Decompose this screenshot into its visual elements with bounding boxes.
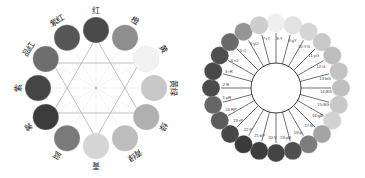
hue-swatch (211, 112, 229, 130)
hue-swatch (83, 17, 109, 43)
hue-swatch (133, 104, 159, 130)
hue-code-label: 7:rY (263, 36, 271, 41)
twenty-four-hue-color-wheel: 8:Y9:gY10:YG11:yG12:G13:bG14:BG15:BG16:g… (180, 0, 365, 178)
hue-label: 绿 (157, 121, 169, 132)
radial-guide-line (96, 52, 117, 88)
hue-swatch (323, 47, 341, 65)
hue-label: 黄 (157, 43, 170, 55)
radial-guide-line (75, 52, 96, 88)
hue-swatch (202, 79, 220, 97)
hue-code-label: 19:pB (280, 135, 291, 140)
hue-swatch (284, 16, 302, 34)
hue-swatch (112, 125, 138, 151)
radial-guide-line (75, 88, 96, 124)
hue-swatch (204, 96, 222, 114)
hue-swatch (54, 25, 80, 51)
hue-label: 橙 (129, 14, 141, 27)
hue-swatch (141, 75, 167, 101)
hue-swatch (112, 25, 138, 51)
hue-code-label: 20:V (268, 135, 277, 140)
hue-code-label: 17:B (304, 123, 313, 128)
hue-swatch (267, 144, 285, 162)
hue-code-label: 22:P (244, 127, 253, 132)
hue-label: 红 (92, 5, 100, 15)
hue-code-label: 4:rO (230, 58, 239, 63)
hue-label: 紫 (23, 121, 35, 132)
hue-swatch (330, 96, 348, 114)
hue-code-label: 14:BG (320, 89, 332, 94)
hue-code-label: 6:yO (250, 41, 260, 46)
hue-code-label: 10:YG (298, 44, 310, 49)
hue-swatch (133, 46, 159, 72)
hue-code-label: 24:RP (225, 107, 237, 112)
twelve-hue-color-wheel: 红橙黄黄绿绿青绿青蓝紫紫品红紫红 (0, 0, 180, 178)
twenty-four-hue-wheel-graphic: 8:Y9:gY10:YG11:yG12:G13:bG14:BG15:BG16:g… (180, 0, 365, 178)
hue-code-label: 23:rP (233, 118, 243, 123)
hue-label: 青 (92, 161, 100, 171)
hue-code-label: 5:O (240, 48, 247, 53)
hue-label: 紫 (14, 84, 23, 92)
hue-code-label: 12:G (316, 64, 325, 69)
radial-guide-line (96, 88, 117, 124)
hue-code-label: 8:Y (276, 36, 282, 41)
hue-swatch (235, 23, 253, 41)
hue-code-label: 16:gB (312, 113, 323, 118)
hue-label: 黄绿 (169, 80, 179, 96)
hue-code-label: 3:rR (225, 69, 233, 74)
hue-code-label: 2:R (223, 82, 230, 87)
hue-swatch (330, 62, 348, 80)
hue-swatch (267, 14, 285, 32)
center-hub (251, 63, 301, 113)
hue-swatch (250, 16, 268, 34)
hue-swatch (204, 62, 222, 80)
hue-swatch (332, 79, 350, 97)
hue-code-label: 1:pR (222, 95, 231, 100)
hue-code-label: 15:BG (317, 102, 329, 107)
hue-swatch (284, 142, 302, 160)
hue-code-label: 11:yG (308, 53, 319, 58)
hue-code-label: 13:bG (319, 76, 330, 81)
hue-code-label: 18:p (294, 130, 303, 135)
hue-code-label: 21:bP (254, 133, 265, 138)
hue-swatch (33, 46, 59, 72)
hue-swatch (33, 104, 59, 130)
hue-swatch (83, 133, 109, 159)
hue-swatch (25, 75, 51, 101)
hue-swatch (300, 135, 318, 153)
hue-code-label: 9:gY (288, 38, 297, 43)
hue-swatch (54, 125, 80, 151)
hue-label: 蓝 (51, 149, 63, 162)
spoke-line (223, 74, 252, 82)
hue-swatch (250, 142, 268, 160)
twelve-hue-wheel-graphic: 红橙黄黄绿绿青绿青蓝紫紫品红紫红 (0, 0, 180, 178)
